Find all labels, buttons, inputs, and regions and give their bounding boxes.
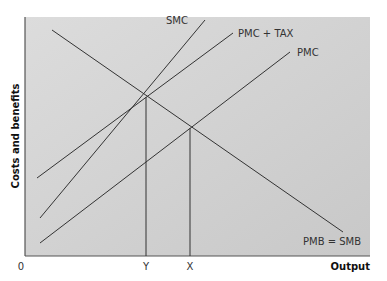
- chart: SMCPMC + TAXPMCPMB = SMB Costs and benef…: [0, 0, 387, 281]
- series-label-3: PMB = SMB: [303, 236, 361, 247]
- x-tick-x: X: [187, 261, 194, 272]
- origin-label: 0: [18, 261, 24, 272]
- series-label-2: PMC: [297, 47, 319, 58]
- x-axis-title: Output: [331, 261, 371, 272]
- series-label-0: SMC: [166, 15, 188, 26]
- y-axis-title: Costs and benefits: [10, 84, 21, 189]
- series-label-1: PMC + TAX: [238, 28, 294, 39]
- x-tick-y: Y: [142, 261, 150, 272]
